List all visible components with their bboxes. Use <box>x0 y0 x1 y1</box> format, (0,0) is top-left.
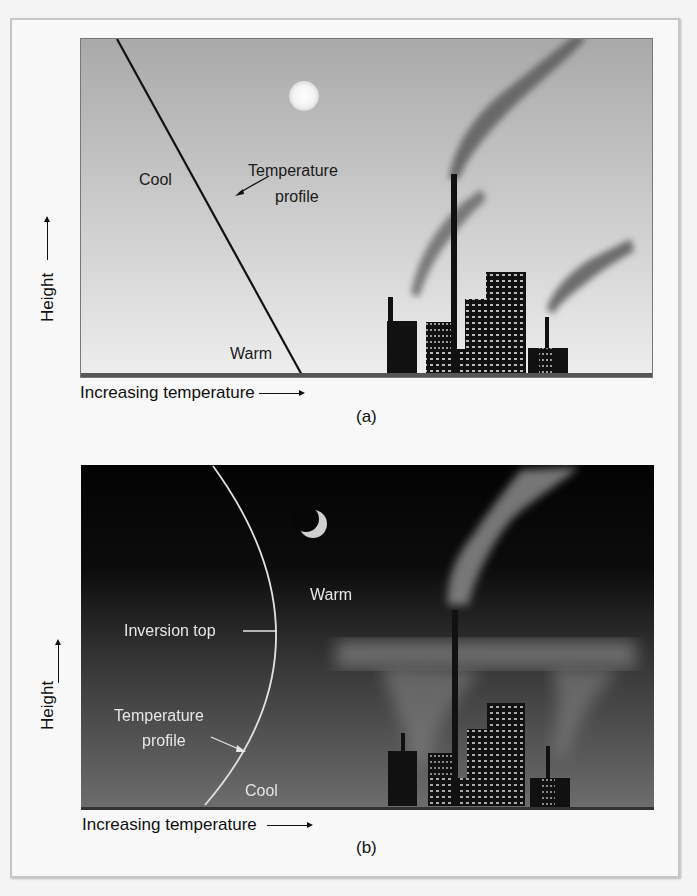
label-cool: Cool <box>245 783 278 799</box>
panel-a-y-axis-arrow-icon <box>47 220 48 260</box>
label-temperature-profile-2: profile <box>275 189 319 205</box>
label-inversion-top: Inversion top <box>124 623 216 639</box>
x-axis-arrow-icon <box>267 825 311 826</box>
panel-b-y-axis-arrow-icon <box>58 643 59 683</box>
panel-a-illustration <box>81 39 652 377</box>
x-axis-arrow-icon <box>259 393 303 394</box>
panel-b-nighttime-inversion: Warm Inversion top Temperature profile C… <box>81 465 654 810</box>
panel-a-daytime-lapse-rate: Cool Temperature profile Warm <box>80 38 653 378</box>
panel-b-caption: (b) <box>356 838 377 858</box>
label-temperature-profile-2: profile <box>142 733 186 749</box>
panel-b-x-axis-label: Increasing temperature <box>82 815 257 834</box>
panel-a-x-axis-label: Increasing temperature <box>80 383 255 402</box>
label-temperature-profile-1: Temperature <box>248 163 338 179</box>
panel-b-y-axis-label: Height <box>38 681 58 730</box>
label-temperature-profile-1: Temperature <box>114 708 204 724</box>
label-warm: Warm <box>310 587 352 603</box>
panel-a-caption: (a) <box>356 407 377 427</box>
sun-icon <box>289 81 319 111</box>
panel-a-y-axis-label: Height <box>38 273 58 322</box>
label-cool: Cool <box>139 172 172 188</box>
label-warm: Warm <box>230 346 272 362</box>
panel-b-x-axis: Increasing temperature <box>82 815 311 835</box>
panel-a-x-axis: Increasing temperature <box>80 383 303 403</box>
